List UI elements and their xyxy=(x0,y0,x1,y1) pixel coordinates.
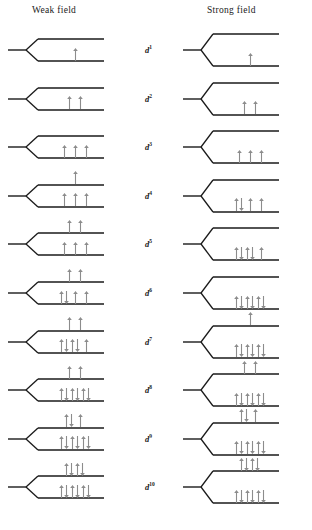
orbital-slot xyxy=(81,193,92,206)
splitting-diagram-weak xyxy=(8,172,108,220)
splitting-diagram-weak xyxy=(8,75,108,123)
electron-set-lower-strong xyxy=(234,344,267,357)
electron-arrow-down-icon xyxy=(239,393,244,406)
configuration-row: d7 xyxy=(0,318,312,366)
d-label-exponent: 4 xyxy=(149,190,152,196)
splitting-diagram-weak xyxy=(8,26,108,74)
orbital-slot xyxy=(239,361,250,374)
electron-arrow-up-icon xyxy=(73,193,78,206)
orbital-slot xyxy=(59,242,70,255)
d-electron-count-label: d8 xyxy=(145,384,152,395)
electron-arrow-up-icon xyxy=(67,220,72,233)
orbital-slot xyxy=(75,366,86,379)
electron-arrow-down-icon xyxy=(86,388,91,401)
orbital-slot xyxy=(70,485,81,498)
electron-arrow-up-icon xyxy=(253,101,258,114)
electron-set-lower-weak xyxy=(59,388,92,401)
electron-arrow-down-icon xyxy=(239,247,244,260)
splitting-diagram-weak xyxy=(8,463,108,511)
orbital-slot xyxy=(234,344,245,357)
d-electron-count-label: d9 xyxy=(145,433,152,444)
electron-arrow-down-icon xyxy=(261,393,266,406)
orbital-slot xyxy=(59,291,70,304)
electron-arrow-up-icon xyxy=(62,193,67,206)
orbital-slot xyxy=(75,317,86,330)
electron-arrow-down-icon xyxy=(80,463,85,476)
orbital-slot xyxy=(81,145,92,158)
orbital-slot xyxy=(81,291,92,304)
electron-set-lower-weak xyxy=(59,436,92,449)
electron-arrow-down-icon xyxy=(64,388,69,401)
orbital-slot xyxy=(234,393,245,406)
splitting-diagram-weak xyxy=(8,415,108,463)
electron-arrow-up-icon xyxy=(237,150,242,163)
electron-set-lower-weak xyxy=(59,193,92,206)
electron-arrow-up-icon xyxy=(248,53,253,66)
orbital-slot xyxy=(70,291,81,304)
electron-arrow-down-icon xyxy=(239,344,244,357)
electron-arrow-down-icon xyxy=(261,490,266,503)
d-electron-count-label: d6 xyxy=(145,287,152,298)
electron-arrow-up-icon xyxy=(242,101,247,114)
orbital-slot xyxy=(81,485,92,498)
splitting-diagram-strong xyxy=(183,415,283,463)
electron-arrow-up-icon xyxy=(248,312,253,325)
orbital-slot xyxy=(64,96,75,109)
orbital-slot xyxy=(234,490,245,503)
configuration-row: d6 xyxy=(0,269,312,317)
orbital-slot xyxy=(59,339,70,352)
splitting-diagram-weak xyxy=(8,366,108,414)
orbital-slot xyxy=(245,198,256,211)
electron-arrow-up-icon xyxy=(78,366,83,379)
d-label-exponent: 8 xyxy=(149,384,152,390)
electron-arrow-down-icon xyxy=(250,247,255,260)
electron-arrow-down-icon xyxy=(250,296,255,309)
d-label-exponent: 3 xyxy=(149,141,152,147)
electron-arrow-up-icon xyxy=(248,198,253,211)
splitting-diagram-strong xyxy=(183,123,283,171)
electron-arrow-up-icon xyxy=(259,198,264,211)
electron-arrow-up-icon xyxy=(242,361,247,374)
orbital-slot xyxy=(75,96,86,109)
configuration-row: d3 xyxy=(0,123,312,171)
electron-arrow-up-icon xyxy=(84,242,89,255)
electron-arrow-up-icon xyxy=(84,193,89,206)
electron-arrow-up-icon xyxy=(62,145,67,158)
electron-arrow-up-icon xyxy=(84,339,89,352)
electron-arrow-up-icon xyxy=(78,269,83,282)
orbital-slot xyxy=(245,53,256,66)
electron-arrow-down-icon xyxy=(250,344,255,357)
electron-arrow-down-icon xyxy=(69,463,74,476)
electron-arrow-up-icon xyxy=(253,409,258,422)
splitting-diagram-strong xyxy=(183,26,283,74)
electron-arrow-up-icon xyxy=(73,145,78,158)
electron-arrow-down-icon xyxy=(239,490,244,503)
electron-arrow-up-icon xyxy=(259,150,264,163)
orbital-slot xyxy=(256,441,267,454)
electron-arrow-up-icon xyxy=(67,269,72,282)
orbital-slot xyxy=(250,458,261,471)
orbital-slot xyxy=(59,436,70,449)
orbital-slot xyxy=(245,344,256,357)
electron-set-lower-strong xyxy=(234,296,267,309)
electron-set-lower-weak xyxy=(59,242,92,255)
orbital-slot xyxy=(64,317,75,330)
orbital-slot xyxy=(234,198,245,211)
orbital-slot xyxy=(250,361,261,374)
d-electron-count-label: d2 xyxy=(145,93,152,104)
electron-set-lower-strong xyxy=(234,490,267,503)
splitting-diagram-strong xyxy=(183,75,283,123)
electron-set-upper-weak xyxy=(64,220,86,233)
electron-arrow-down-icon xyxy=(250,490,255,503)
electron-arrow-up-icon xyxy=(78,96,83,109)
electron-arrow-up-icon xyxy=(67,96,72,109)
orbital-slot xyxy=(64,463,75,476)
orbital-slot xyxy=(70,436,81,449)
orbital-slot xyxy=(239,101,250,114)
orbital-slot xyxy=(256,393,267,406)
configuration-row: d8 xyxy=(0,366,312,414)
electron-arrow-down-icon xyxy=(75,388,80,401)
electron-arrow-down-icon xyxy=(261,296,266,309)
orbital-slot xyxy=(256,198,267,211)
electron-set-upper-weak xyxy=(64,414,86,427)
